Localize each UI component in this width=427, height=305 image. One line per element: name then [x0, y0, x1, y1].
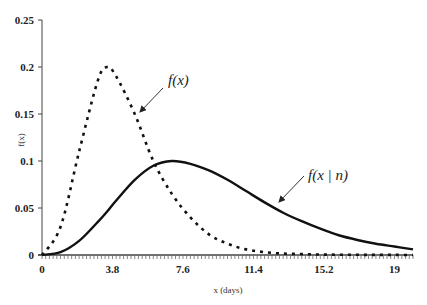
series-f-x-dashed [42, 67, 413, 255]
axes: 00.050.10.150.20.2503.87.611.415.219 [15, 14, 413, 275]
x-tick-label: 11.4 [244, 263, 263, 275]
x-tick-label: 7.6 [176, 263, 190, 275]
x-tick-label: 19 [389, 263, 401, 275]
y-axis-title: f(x) [16, 133, 26, 147]
y-tick-label: 0.25 [15, 14, 35, 26]
y-tick-label: 0.2 [20, 61, 34, 73]
x-tick-label: 15.2 [314, 263, 334, 275]
series-f-x-given-n-solid [42, 161, 413, 255]
x-tick-label: 3.8 [106, 263, 120, 275]
x-tick-label: 0 [39, 263, 45, 275]
label-f-x: f(x) [168, 72, 189, 89]
arrow-f-x-given-n [279, 176, 304, 202]
y-tick-label: 0.1 [20, 155, 34, 167]
series-layer [42, 67, 413, 255]
annotations: f(x)f(x | n) [140, 72, 348, 202]
y-tick-label: 0.15 [15, 108, 35, 120]
x-axis-title: x (days) [213, 285, 242, 295]
y-tick-label: 0.05 [15, 202, 35, 214]
label-f-x-given-n: f(x | n) [308, 167, 348, 184]
arrow-f-x [140, 88, 163, 112]
chart: 00.050.10.150.20.2503.87.611.415.219 f(x… [0, 0, 427, 305]
y-tick-label: 0 [29, 249, 35, 261]
